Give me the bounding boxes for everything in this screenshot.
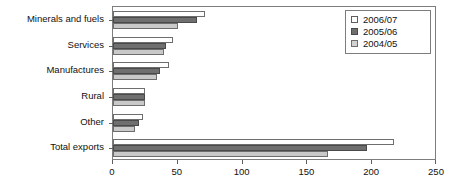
x-axis-tick-label: 150	[298, 166, 314, 177]
category-label: Manufactures	[46, 65, 104, 75]
y-axis-tick	[109, 123, 113, 124]
bar-group	[113, 114, 435, 132]
x-axis-tick-label: 50	[172, 166, 183, 177]
legend-label: 2005/06	[363, 27, 397, 37]
bar-group	[113, 62, 435, 80]
x-axis: 050100150200250	[112, 160, 436, 186]
legend-label: 2004/05	[363, 39, 397, 49]
legend-swatch-icon	[351, 16, 358, 23]
bar-chart: Minerals and fuelsServicesManufacturesRu…	[0, 0, 458, 192]
category-label: Minerals and fuels	[27, 14, 104, 24]
x-axis-tick	[177, 160, 178, 164]
bar	[113, 74, 157, 80]
x-axis-tick-label: 0	[109, 166, 114, 177]
legend-label: 2006/07	[363, 15, 397, 25]
bar	[113, 49, 164, 55]
category-label: Rural	[81, 91, 104, 101]
x-axis-tick	[371, 160, 372, 164]
x-axis-tick	[242, 160, 243, 164]
category-label: Services	[68, 40, 104, 50]
category-axis: Minerals and fuelsServicesManufacturesRu…	[0, 6, 108, 160]
x-axis-tick	[306, 160, 307, 164]
bar	[113, 23, 178, 29]
y-axis-tick	[109, 20, 113, 21]
x-axis-tick	[112, 160, 113, 164]
chart-legend: 2006/072005/062004/05	[345, 10, 431, 54]
category-label: Total exports	[50, 142, 104, 152]
legend-item: 2006/07	[351, 14, 426, 25]
y-axis-tick	[109, 97, 113, 98]
x-axis-tick	[435, 160, 436, 164]
y-axis-tick	[109, 71, 113, 72]
x-axis-tick-label: 250	[428, 166, 444, 177]
legend-item: 2005/06	[351, 26, 426, 37]
legend-swatch-icon	[351, 40, 358, 47]
x-axis-tick-label: 200	[363, 166, 379, 177]
legend-swatch-icon	[351, 28, 358, 35]
legend-item: 2004/05	[351, 38, 426, 49]
bar-group	[113, 139, 435, 157]
bar	[113, 151, 328, 157]
bar	[113, 126, 135, 132]
category-label: Other	[80, 117, 104, 127]
bar-group	[113, 88, 435, 106]
y-axis-tick	[109, 148, 113, 149]
x-axis-tick-label: 100	[234, 166, 250, 177]
y-axis-tick	[109, 46, 113, 47]
bar	[113, 100, 145, 106]
